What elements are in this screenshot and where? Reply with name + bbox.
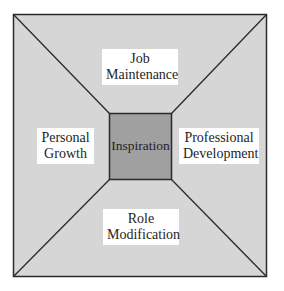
label-line-2: Modification xyxy=(107,227,175,243)
center-label-inspiration: Inspiration xyxy=(109,138,172,154)
label-line-1: Job xyxy=(106,51,174,67)
label-line-1: Role xyxy=(107,211,175,227)
center-label-text: Inspiration xyxy=(111,138,170,153)
label-professional-development: Professional Development xyxy=(179,128,259,164)
label-line-2: Growth xyxy=(41,146,90,162)
label-job-maintenance: Job Maintenance xyxy=(102,49,178,85)
label-role-modification: Role Modification xyxy=(103,209,179,245)
label-personal-growth: Personal Growth xyxy=(37,128,94,164)
label-line-1: Personal xyxy=(41,130,90,146)
label-line-2: Maintenance xyxy=(106,67,174,83)
label-line-2: Development xyxy=(183,146,255,162)
label-line-1: Professional xyxy=(183,130,255,146)
